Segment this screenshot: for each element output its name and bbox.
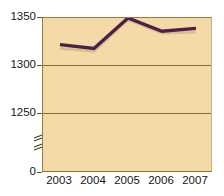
x-tick-label-2004: 2004 — [80, 175, 106, 187]
y-tick-mark-0 — [37, 172, 42, 173]
x-axis: 2003 2004 2005 2006 2007 — [42, 175, 212, 195]
y-tick-label-1300: 1300 — [10, 59, 36, 71]
x-tick-label-2005: 2005 — [114, 175, 140, 187]
line-chart: 1350 1300 1250 0 2003 2004 2005 2006 200… — [0, 0, 224, 196]
y-tick-label-1350: 1350 — [10, 11, 36, 23]
x-tick-label-2007: 2007 — [182, 175, 208, 187]
x-tick-label-2006: 2006 — [148, 175, 174, 187]
plot-area — [42, 17, 212, 172]
y-axis: 1350 1300 1250 0 — [0, 0, 40, 196]
y-tick-label-0: 0 — [30, 166, 36, 178]
series-container — [43, 18, 212, 172]
y-tick-label-1250: 1250 — [10, 107, 36, 119]
x-tick-label-2003: 2003 — [46, 175, 72, 187]
